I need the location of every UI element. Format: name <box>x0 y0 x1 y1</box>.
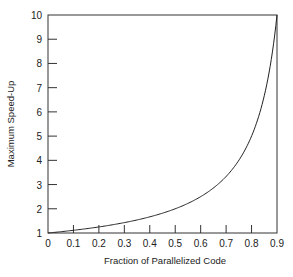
plot-frame <box>48 15 277 233</box>
x-tick-label: 0.9 <box>270 238 284 249</box>
x-tick-label: 0.6 <box>194 238 208 249</box>
x-tick-label: 0.5 <box>168 238 182 249</box>
x-tick-label: 0.3 <box>117 238 131 249</box>
x-tick-label: 0 <box>45 238 51 249</box>
x-tick-label: 0.1 <box>66 238 80 249</box>
y-tick-label: 5 <box>36 131 42 142</box>
y-tick-label: 6 <box>36 107 42 118</box>
speedup-curve <box>48 15 277 233</box>
x-axis-label: Fraction of Parallelized Code <box>104 255 226 266</box>
x-tick-label: 0.4 <box>143 238 157 249</box>
y-tick-label: 4 <box>36 155 42 166</box>
y-tick-label: 9 <box>36 34 42 45</box>
y-tick-label: 3 <box>36 180 42 191</box>
x-tick-label: 0.7 <box>219 238 233 249</box>
y-tick-label: 10 <box>31 10 43 21</box>
y-tick-label: 1 <box>36 228 42 239</box>
y-axis-ticks: 12345678910 <box>31 10 57 239</box>
plot-border <box>48 15 277 233</box>
x-tick-label: 0.2 <box>92 238 106 249</box>
x-tick-label: 0.8 <box>245 238 259 249</box>
speedup-chart: 00.10.20.30.40.50.60.70.80.9 12345678910… <box>0 0 293 277</box>
y-tick-label: 2 <box>36 204 42 215</box>
y-tick-label: 7 <box>36 83 42 94</box>
y-tick-label: 8 <box>36 58 42 69</box>
y-axis-label: Maximum Speed-Up <box>5 81 16 168</box>
x-axis-ticks: 00.10.20.30.40.50.60.70.80.9 <box>45 225 284 249</box>
